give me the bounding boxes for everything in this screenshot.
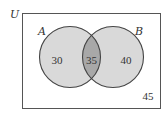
set-a-only-value: 30 bbox=[52, 54, 64, 66]
set-b-label: B bbox=[134, 25, 143, 38]
outside-value: 45 bbox=[143, 90, 155, 102]
set-a-label: A bbox=[37, 25, 46, 38]
venn-diagram: U A B 30 35 40 45 bbox=[0, 0, 168, 118]
set-b-only-value: 40 bbox=[121, 54, 133, 66]
universe-label: U bbox=[10, 8, 20, 21]
intersection-value: 35 bbox=[86, 54, 98, 66]
